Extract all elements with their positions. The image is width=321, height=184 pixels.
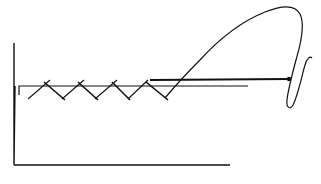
diagram-canvas xyxy=(0,0,321,184)
line-drawing xyxy=(0,0,321,184)
upper-rail-line xyxy=(150,79,290,80)
rail-endpoint-dot xyxy=(287,77,291,81)
background xyxy=(0,0,321,184)
